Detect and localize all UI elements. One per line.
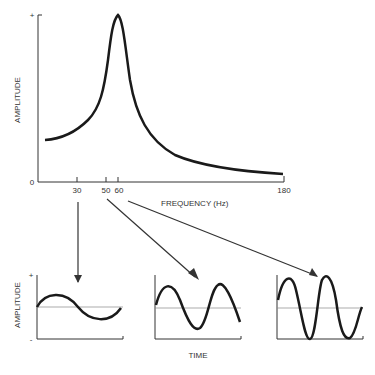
time-label: TIME bbox=[188, 351, 207, 360]
x-tick-50: 50 bbox=[102, 186, 111, 195]
resonance-diagram: + 0 AMPLITUDE 30 50 60 180 FREQUENCY (Hz… bbox=[0, 0, 375, 375]
svg-text:-: - bbox=[30, 335, 33, 344]
main-chart: + 0 AMPLITUDE 30 50 60 180 FREQUENCY (Hz… bbox=[13, 11, 291, 208]
small-y-label: AMPLITUDE bbox=[13, 282, 22, 328]
time-chart-50hz bbox=[155, 275, 241, 339]
x-tick-180: 180 bbox=[277, 186, 291, 195]
resonance-curve bbox=[45, 15, 283, 174]
y-top-tick: + bbox=[30, 11, 35, 20]
arrows bbox=[74, 199, 318, 283]
x-axis-label: FREQUENCY (Hz) bbox=[161, 199, 229, 208]
x-tick-30: 30 bbox=[73, 186, 82, 195]
y-axis-label: AMPLITUDE bbox=[13, 77, 22, 123]
y-zero-tick: 0 bbox=[30, 178, 35, 187]
svg-text:+: + bbox=[29, 271, 34, 280]
time-chart-30hz: + - AMPLITUDE bbox=[13, 271, 123, 344]
x-tick-60: 60 bbox=[115, 186, 124, 195]
